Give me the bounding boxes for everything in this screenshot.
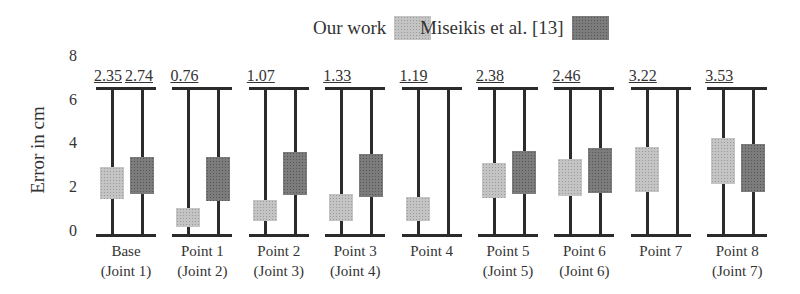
x-label-line1: Point 7 <box>639 241 682 261</box>
box-our-work <box>329 194 353 221</box>
whisker-cap-bottom <box>554 234 614 237</box>
legend-item-our-work: Our work <box>313 16 431 40</box>
whisker-cap-top <box>478 87 538 90</box>
x-label-line1: Base <box>101 241 151 261</box>
box-miseikis <box>359 154 383 197</box>
legend-label: Our work <box>313 17 386 39</box>
x-category-label: Base(Joint 1) <box>101 241 151 281</box>
whisker-line <box>676 88 679 235</box>
x-label-line2: (Joint 2) <box>177 261 227 281</box>
box-our-work <box>100 167 124 199</box>
whisker-cap-top <box>249 87 309 90</box>
whisker-cap-top <box>631 87 691 90</box>
box-our-work <box>711 138 735 184</box>
whisker-cap-bottom <box>172 234 232 237</box>
y-tick-label: 4 <box>66 134 80 152</box>
whisker-line <box>447 88 450 235</box>
x-category-label: Point 1(Joint 2) <box>177 241 227 281</box>
x-category-label: Point 8(Joint 7) <box>712 241 762 281</box>
box-our-work <box>635 147 659 192</box>
box-miseikis <box>283 152 307 195</box>
box-miseikis <box>588 148 612 193</box>
x-category-label: Point 6(Joint 6) <box>559 241 609 281</box>
whisker-cap-bottom <box>96 234 156 237</box>
whisker-cap-top <box>707 87 767 90</box>
median-value-label: 2.35 <box>94 67 122 85</box>
median-value-label: 1.07 <box>247 67 275 85</box>
y-axis-label: Error in cm <box>27 106 49 194</box>
x-category-label: Point 4 <box>410 241 453 261</box>
median-value-label: 0.76 <box>170 67 198 85</box>
legend-swatch-dark <box>572 16 609 40</box>
whisker-cap-top <box>402 87 462 90</box>
median-value-label: 2.38 <box>476 67 504 85</box>
x-label-line2: (Joint 3) <box>254 261 304 281</box>
x-label-line2: (Joint 4) <box>330 261 380 281</box>
x-label-line1: Point 4 <box>410 241 453 261</box>
whisker-line <box>493 88 496 235</box>
box-miseikis <box>130 157 154 194</box>
box-plot-chart: Our work Miseikis et al. [13] Error in c… <box>0 0 800 294</box>
whisker-cap-top <box>96 87 156 90</box>
whisker-cap-bottom <box>707 234 767 237</box>
whisker-cap-bottom <box>402 234 462 237</box>
median-value-label: 2.46 <box>552 67 580 85</box>
median-value-label: 1.33 <box>323 67 351 85</box>
whisker-cap-top <box>325 87 385 90</box>
whisker-cap-top <box>554 87 614 90</box>
median-value-label: 3.22 <box>629 67 657 85</box>
box-our-work <box>482 163 506 198</box>
whisker-cap-bottom <box>325 234 385 237</box>
whisker-cap-bottom <box>478 234 538 237</box>
legend-item-miseikis: Miseikis et al. [13] <box>420 16 609 40</box>
box-miseikis <box>206 157 230 201</box>
x-label-line1: Point 5 <box>483 241 533 261</box>
box-our-work <box>406 197 430 221</box>
x-label-line1: Point 2 <box>254 241 304 261</box>
x-label-line2: (Joint 1) <box>101 261 151 281</box>
median-value-label: 2.74 <box>125 67 153 85</box>
box-our-work <box>176 208 200 227</box>
legend: Our work Miseikis et al. [13] <box>0 16 800 46</box>
x-category-label: Point 5(Joint 5) <box>483 241 533 281</box>
x-label-line2: (Joint 7) <box>712 261 762 281</box>
median-value-label: 3.53 <box>705 67 733 85</box>
x-label-line1: Point 8 <box>712 241 762 261</box>
x-label-line1: Point 1 <box>177 241 227 261</box>
box-miseikis <box>741 144 765 192</box>
y-tick-label: 8 <box>66 47 80 65</box>
y-tick-label: 6 <box>66 91 80 109</box>
legend-label: Miseikis et al. [13] <box>420 17 564 39</box>
whisker-cap-bottom <box>631 234 691 237</box>
x-label-line2: (Joint 6) <box>559 261 609 281</box>
y-tick-label: 2 <box>66 178 80 196</box>
median-value-label: 1.19 <box>400 67 428 85</box>
box-our-work <box>558 159 582 196</box>
whisker-cap-top <box>172 87 232 90</box>
x-category-label: Point 3(Joint 4) <box>330 241 380 281</box>
box-our-work <box>253 200 277 221</box>
whisker-cap-bottom <box>249 234 309 237</box>
box-miseikis <box>512 151 536 194</box>
x-category-label: Point 2(Joint 3) <box>254 241 304 281</box>
x-label-line2: (Joint 5) <box>483 261 533 281</box>
x-label-line1: Point 3 <box>330 241 380 261</box>
x-label-line1: Point 6 <box>559 241 609 261</box>
x-category-label: Point 7 <box>639 241 682 261</box>
y-tick-label: 0 <box>66 222 80 240</box>
whisker-line <box>111 88 114 235</box>
